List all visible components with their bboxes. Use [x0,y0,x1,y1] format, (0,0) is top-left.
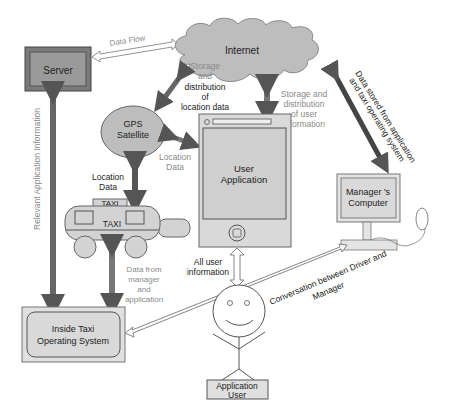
svg-text:Inside Taxi: Inside Taxi [52,324,94,334]
svg-text:and: and [137,285,150,294]
svg-text:User: User [228,390,246,400]
svg-text:distribution: distribution [283,99,324,109]
svg-text:Satellite: Satellite [117,130,149,140]
internet-label: Internet [225,45,259,56]
server-label: Server [43,65,73,76]
svg-text:location data: location data [181,102,229,112]
svg-text:Application: Application [221,174,267,185]
svg-text:and: and [198,71,212,81]
svg-text:manager: manager [128,275,160,284]
stick-figure-icon [213,285,265,380]
svg-text:Location: Location [159,152,191,162]
svg-text:Operating System: Operating System [37,336,109,346]
data-from-manager-label: Data from manager and application [125,265,163,304]
svg-text:Data from: Data from [126,265,161,274]
svg-text:Conversation between Driver an: Conversation between Driver and [268,248,388,307]
taxi-node: TAXI TAXI [65,199,190,258]
data-flow-label: Data Flow [109,33,146,48]
relevant-info-label: Relevant Application Information [32,108,42,230]
svg-text:information: information [187,267,229,277]
svg-text:Data: Data [166,162,184,172]
internet-gps-arrow [160,74,182,104]
svg-text:Manager 's: Manager 's [346,187,391,197]
svg-text:User: User [234,163,254,174]
all-user-info-label: All user information [187,257,229,277]
svg-text:application: application [125,295,163,304]
user-application-node: User Application [199,114,291,247]
svg-text:of user: of user [291,109,317,119]
data-flow-arrow: Data Flow [92,33,178,62]
svg-text:Computer: Computer [348,198,388,208]
svg-text:TAXI: TAXI [103,219,121,229]
gps-satellite-node: GPS Satellite [101,106,165,158]
manager-computer-node: Manager 's Computer [337,174,428,250]
internet-cloud: Internet [175,18,318,81]
system-diagram: Server Data Flow Internet Storage and di… [0,0,456,418]
app-user-arrow [230,248,244,287]
inside-taxi-os-node: Inside Taxi Operating System [22,307,125,362]
gps-app-arrow [170,136,192,144]
application-user-node: Application User [207,380,268,400]
svg-text:distribution: distribution [184,82,225,92]
location-data-taxi-label: Location Data [92,172,124,192]
svg-text:Data: Data [99,182,117,192]
svg-text:of: of [201,92,209,102]
svg-text:Location: Location [92,172,124,182]
location-data-app-label: Location Data [159,152,191,172]
server-node: Server [25,47,91,91]
svg-text:All user: All user [194,257,223,267]
svg-text:Data stored from application: Data stored from application [353,69,418,165]
svg-text:GPS: GPS [123,119,142,129]
svg-text:Storage and: Storage and [281,89,328,99]
svg-text:Storage: Storage [190,61,220,71]
mouse-icon [416,208,428,230]
